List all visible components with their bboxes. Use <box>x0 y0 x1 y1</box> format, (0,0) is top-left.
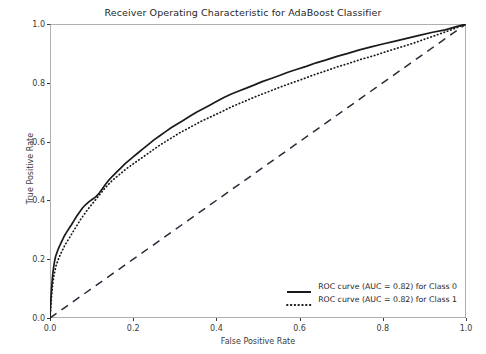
plot-svg <box>50 24 466 318</box>
x-tick-label: 0.2 <box>127 324 140 333</box>
x-axis-label: False Positive Rate <box>50 337 466 346</box>
legend-solid-line-icon <box>286 282 312 292</box>
y-axis-label: True Positive Rate <box>26 109 35 229</box>
legend-item[interactable]: ROC curve (AUC = 0.82) for Class 1 <box>286 293 457 306</box>
x-tick-label: 0.6 <box>293 324 306 333</box>
x-tick-mark <box>383 318 384 321</box>
x-tick-mark <box>133 318 134 321</box>
legend-label: ROC curve (AUC = 0.82) for Class 0 <box>318 282 457 291</box>
legend-item[interactable]: ROC curve (AUC = 0.82) for Class 0 <box>286 280 457 293</box>
legend-label: ROC curve (AUC = 0.82) for Class 1 <box>318 295 457 304</box>
x-tick-label: 0.0 <box>44 324 57 333</box>
y-tick-label: 0.2 <box>32 255 45 264</box>
plot-area: 0.00.20.40.60.81.0 0.00.20.40.60.81.0 Tr… <box>50 24 466 318</box>
chart-title: Receiver Operating Characteristic for Ad… <box>0 7 486 18</box>
x-tick-mark <box>300 318 301 321</box>
y-tick-mark <box>47 83 50 84</box>
x-tick-label: 1.0 <box>460 324 473 333</box>
chart-legend: ROC curve (AUC = 0.82) for Class 0ROC cu… <box>282 276 462 310</box>
legend-dotted-line-icon <box>286 295 312 305</box>
y-tick-label: 0.0 <box>32 314 45 323</box>
x-tick-mark <box>50 318 51 321</box>
y-tick-label: 1.0 <box>32 20 45 29</box>
x-tick-mark <box>466 318 467 321</box>
roc-chart-figure: Receiver Operating Characteristic for Ad… <box>0 0 486 354</box>
y-tick-mark <box>47 142 50 143</box>
y-tick-mark <box>47 24 50 25</box>
x-tick-label: 0.8 <box>376 324 389 333</box>
y-tick-mark <box>47 200 50 201</box>
y-tick-mark <box>47 259 50 260</box>
x-tick-mark <box>216 318 217 321</box>
x-tick-label: 0.4 <box>210 324 223 333</box>
y-tick-label: 0.8 <box>32 78 45 87</box>
